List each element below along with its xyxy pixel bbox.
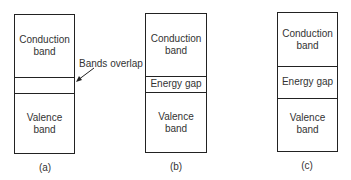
band-text: band	[145, 123, 207, 135]
energy-gap-label-b: Energy gap	[145, 78, 207, 90]
conduction-text: Conduction	[145, 33, 207, 45]
caption-b: (b)	[161, 161, 191, 172]
band-text: band	[277, 124, 338, 136]
conduction-text: Conduction	[277, 28, 338, 40]
valence-band-label-c: Valence band	[277, 112, 338, 136]
valence-band-top-b	[145, 92, 207, 93]
caption-c: (c)	[292, 160, 322, 171]
valence-text: Valence	[145, 111, 207, 123]
band-text: band	[277, 40, 338, 52]
band-text: band	[145, 45, 207, 57]
conduction-band-bottom-c	[277, 66, 338, 67]
conduction-band-bottom-b	[145, 76, 207, 77]
valence-band-top-c	[277, 98, 338, 99]
conduction-band-label-b: Conduction band	[145, 33, 207, 57]
energy-gap-label-c: Energy gap	[277, 76, 338, 88]
valence-text: Valence	[277, 112, 338, 124]
valence-band-label-b: Valence band	[145, 111, 207, 135]
conduction-band-label-c: Conduction band	[277, 28, 338, 52]
